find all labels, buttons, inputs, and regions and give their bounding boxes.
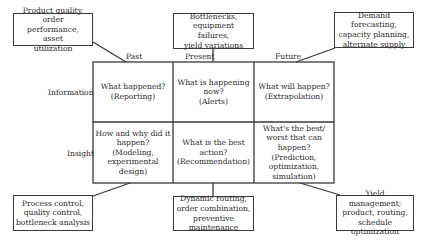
callout-bottom-right: Yield management; product, routing, sche… bbox=[336, 195, 414, 231]
row-header-information: Information bbox=[48, 88, 94, 97]
callout-bottom-left: Process control, quality control, bottle… bbox=[13, 195, 93, 231]
column-header-present: Present bbox=[185, 52, 215, 61]
cell-insight-present: What is the best action? (Recommendation… bbox=[173, 122, 254, 183]
cell-information-future: What will happen? (Extrapolation) bbox=[254, 62, 334, 122]
column-header-past: Past bbox=[126, 52, 142, 61]
callout-top-right: Demand forecasting, capacity planning, a… bbox=[334, 12, 414, 48]
cell-information-present: What is happening now? (Alerts) bbox=[173, 62, 254, 122]
callout-bottom-center: Dynamic routing, order combination, prev… bbox=[173, 196, 254, 231]
cell-insight-future: What's the best/ worst that can happen? … bbox=[254, 122, 334, 183]
callout-top-left: Product quality, order performance, asse… bbox=[13, 13, 93, 46]
column-header-future: Future bbox=[275, 52, 301, 61]
callout-top-center: Bottlenecks, equipment failures, yield v… bbox=[173, 13, 254, 49]
row-header-insight: Insight bbox=[67, 149, 94, 158]
cell-insight-past: How and why did it happen? (Modeling, ex… bbox=[93, 122, 173, 183]
cell-information-past: What happened? (Reporting) bbox=[93, 62, 173, 122]
